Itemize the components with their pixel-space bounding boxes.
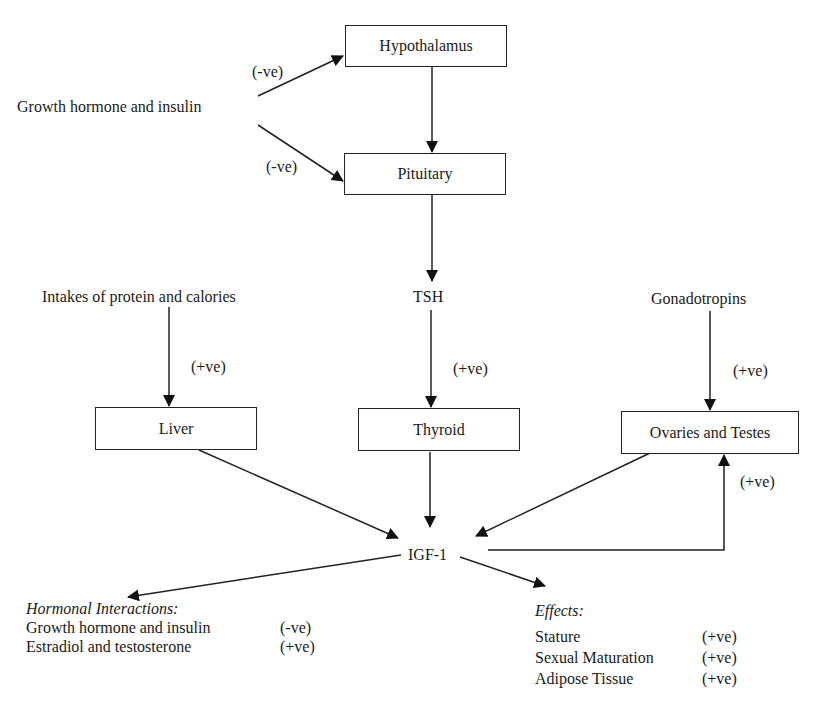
label-gonadotropins: Gonadotropins xyxy=(651,290,746,308)
node-liver: Liver xyxy=(95,407,257,450)
node-label: Hypothalamus xyxy=(379,37,472,55)
sign-gonadotropins-gonads: (+ve) xyxy=(733,362,768,380)
node-ovaries-testes: Ovaries and Testes xyxy=(621,411,799,454)
hi-item-sign: (-ve) xyxy=(280,619,311,637)
node-label: Ovaries and Testes xyxy=(650,424,770,442)
effect-item-name: Sexual Maturation xyxy=(535,649,654,667)
label-gh-insulin: Growth hormone and insulin xyxy=(17,98,201,116)
node-label: Pituitary xyxy=(397,165,452,183)
label-tsh: TSH xyxy=(413,288,443,306)
hormonal-interactions-title: Hormonal Interactions: xyxy=(26,600,178,618)
node-hypothalamus: Hypothalamus xyxy=(345,25,507,67)
hi-item-sign: (+ve) xyxy=(280,638,315,656)
label-igf1: IGF-1 xyxy=(408,546,447,564)
sign-igf1-gonads: (+ve) xyxy=(740,473,775,491)
node-pituitary: Pituitary xyxy=(344,153,506,195)
sign-intakes-liver: (+ve) xyxy=(191,358,226,376)
effect-item-name: Stature xyxy=(535,628,580,646)
node-label: Thyroid xyxy=(413,421,465,439)
sign-tsh-thyroid: (+ve) xyxy=(453,360,488,378)
effect-item-sign: (+ve) xyxy=(702,649,737,667)
effects-title: Effects: xyxy=(535,602,584,620)
sign-gh-hypothalamus: (-ve) xyxy=(252,63,283,81)
hi-item-name: Growth hormone and insulin xyxy=(26,619,210,637)
effect-item-sign: (+ve) xyxy=(702,628,737,646)
effect-item-sign: (+ve) xyxy=(702,670,737,688)
effect-item-name: Adipose Tissue xyxy=(535,670,633,688)
node-label: Liver xyxy=(159,420,194,438)
sign-gh-pituitary: (-ve) xyxy=(266,158,297,176)
hi-item-name: Estradiol and testosterone xyxy=(26,638,191,656)
node-thyroid: Thyroid xyxy=(358,408,520,451)
label-intakes: Intakes of protein and calories xyxy=(42,288,236,306)
